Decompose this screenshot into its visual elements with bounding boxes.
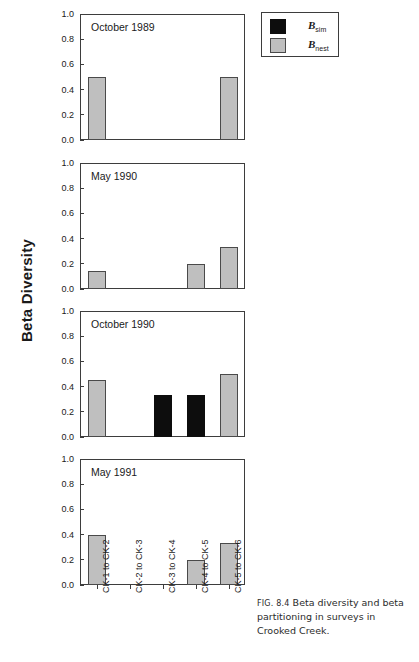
y-tick-label: 0.4 <box>61 530 80 540</box>
panel-1: 0.00.20.40.60.81.0October 1989 <box>80 14 245 140</box>
y-tick-mark <box>80 386 84 387</box>
y-tick-label: 1.0 <box>61 9 80 19</box>
x-tick-label: CK-1 to CK-2 <box>101 539 111 593</box>
y-tick-mark <box>80 411 84 412</box>
y-tick-label: 1.0 <box>61 158 80 168</box>
y-tick-mark <box>80 238 84 239</box>
y-tick-mark <box>80 163 84 164</box>
legend-label-nest: Bnest <box>308 38 329 52</box>
x-tick-label: CK-3 to CK-4 <box>167 539 177 593</box>
x-tick-label: CK-2 to CK-3 <box>134 539 144 593</box>
y-tick-mark <box>80 585 84 586</box>
panel-title: May 1991 <box>91 466 137 478</box>
y-tick-label: 0.8 <box>61 183 80 193</box>
y-tick-mark <box>80 336 84 337</box>
legend-swatch-nest <box>270 38 286 53</box>
y-tick-mark <box>80 213 84 214</box>
bar-sim-4 <box>187 395 205 437</box>
y-tick-mark <box>80 484 84 485</box>
panel-3: 0.00.20.40.60.81.0October 1990 <box>80 311 245 437</box>
y-tick-label: 0.2 <box>61 259 80 269</box>
y-tick-mark <box>80 311 84 312</box>
bar-nest-1 <box>88 380 106 437</box>
legend-item-sim: Bsim <box>270 18 326 34</box>
x-tick-mark <box>130 585 131 589</box>
y-tick-label: 0.0 <box>61 580 80 590</box>
bar-nest-4 <box>187 264 205 289</box>
y-tick-mark <box>80 459 84 460</box>
y-tick-mark <box>80 114 84 115</box>
panel-2: 0.00.20.40.60.81.0May 1990 <box>80 163 245 289</box>
y-tick-mark <box>80 361 84 362</box>
y-tick-label: 0.4 <box>61 382 80 392</box>
x-tick-mark <box>97 585 98 589</box>
y-tick-label: 0.0 <box>61 135 80 145</box>
x-tick-label: CK-4 to CK-5 <box>200 539 210 593</box>
bar-nest-1 <box>88 271 106 289</box>
panel-4: 0.00.20.40.60.81.0CK-1 to CK-2CK-2 to CK… <box>80 459 245 585</box>
y-tick-label: 0.6 <box>61 356 80 366</box>
y-tick-mark <box>80 534 84 535</box>
y-tick-label: 0.0 <box>61 284 80 294</box>
y-tick-label: 0.2 <box>61 555 80 565</box>
y-tick-mark <box>80 509 84 510</box>
figure-number: FIG. 8.4 <box>257 599 290 608</box>
y-tick-mark <box>80 39 84 40</box>
x-tick-mark <box>163 585 164 589</box>
legend-label-sim: Bsim <box>308 19 326 33</box>
y-axis-title-label: Beta Diversity <box>18 239 35 342</box>
bar-sim-3 <box>154 395 172 437</box>
y-axis-title: Beta Diversity <box>6 0 46 580</box>
y-tick-label: 0.4 <box>61 85 80 95</box>
y-tick-label: 0.0 <box>61 432 80 442</box>
y-tick-mark <box>80 188 84 189</box>
x-tick-mark <box>196 585 197 589</box>
legend-item-nest: Bnest <box>270 37 329 53</box>
bar-nest-5 <box>220 374 238 437</box>
y-tick-label: 0.8 <box>61 331 80 341</box>
y-tick-mark <box>80 140 84 141</box>
y-tick-mark <box>80 89 84 90</box>
legend: Bsim Bnest <box>261 12 339 57</box>
x-tick-mark <box>229 585 230 589</box>
y-tick-mark <box>80 263 84 264</box>
bar-nest-5 <box>220 77 238 140</box>
y-tick-mark <box>80 289 84 290</box>
y-tick-label: 0.6 <box>61 504 80 514</box>
y-tick-mark <box>80 14 84 15</box>
panel-title: October 1989 <box>91 21 155 33</box>
y-tick-label: 0.8 <box>61 479 80 489</box>
figure-caption: FIG. 8.4 Beta diversity and beta partiti… <box>257 596 415 637</box>
legend-swatch-sim <box>270 19 286 34</box>
y-tick-mark <box>80 64 84 65</box>
y-tick-label: 1.0 <box>61 454 80 464</box>
y-tick-label: 0.8 <box>61 34 80 44</box>
y-tick-mark <box>80 437 84 438</box>
y-tick-label: 0.2 <box>61 407 80 417</box>
y-tick-label: 0.6 <box>61 208 80 218</box>
y-tick-label: 1.0 <box>61 306 80 316</box>
panel-title: May 1990 <box>91 170 137 182</box>
bar-nest-1 <box>88 77 106 140</box>
y-tick-label: 0.4 <box>61 234 80 244</box>
x-tick-label: CK-5 to CK-6 <box>233 539 243 593</box>
panel-title: October 1990 <box>91 318 155 330</box>
bar-nest-5 <box>220 247 238 289</box>
y-tick-label: 0.6 <box>61 59 80 69</box>
y-tick-mark <box>80 559 84 560</box>
y-tick-label: 0.2 <box>61 110 80 120</box>
